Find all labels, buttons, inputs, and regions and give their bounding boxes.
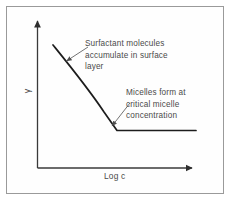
surfactant-annotation-text: Surfactant molecules accumulate in surfa… [85, 38, 168, 73]
surfactant-annotation-line-1: Surfactant molecules [85, 38, 168, 50]
micelles-annotation-line-1: Micelles form at [126, 87, 186, 99]
micelles-annotation-line-2: critical micelle [126, 99, 186, 111]
y-axis-label: γ [22, 89, 32, 94]
micelles-annotation-line-3: concentration [126, 110, 186, 122]
surfactant-surface-tension-figure: Surfactant molecules accumulate in surfa… [0, 0, 232, 202]
surfactant-annotation-line-2: accumulate in surface [85, 50, 168, 62]
micelles-annotation-text: Micelles form at critical micelle concen… [126, 87, 186, 122]
x-axis-label: Log c [104, 171, 126, 181]
surfactant-annotation-line-3: layer [85, 61, 168, 73]
